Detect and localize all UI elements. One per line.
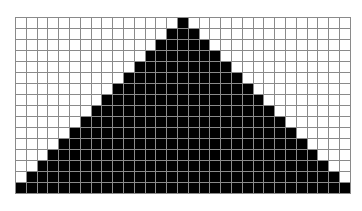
filled-cell [189, 51, 200, 62]
filled-cell [254, 172, 265, 183]
empty-cell [297, 84, 308, 95]
empty-cell [16, 128, 27, 139]
empty-cell [81, 18, 92, 29]
filled-cell [275, 172, 286, 183]
empty-cell [81, 95, 92, 106]
empty-cell [48, 128, 59, 139]
filled-cell [318, 161, 329, 172]
filled-cell [124, 150, 135, 161]
empty-cell [113, 18, 124, 29]
empty-cell [81, 62, 92, 73]
empty-cell [27, 62, 38, 73]
empty-cell [210, 40, 221, 51]
empty-cell [329, 161, 340, 172]
filled-cell [167, 183, 178, 194]
filled-cell [135, 117, 146, 128]
filled-cell [146, 128, 157, 139]
empty-cell [113, 29, 124, 40]
filled-cell [189, 150, 200, 161]
empty-cell [48, 62, 59, 73]
filled-cell [156, 172, 167, 183]
empty-cell [286, 62, 297, 73]
filled-cell [156, 51, 167, 62]
filled-cell [189, 128, 200, 139]
empty-cell [200, 29, 211, 40]
empty-cell [318, 106, 329, 117]
filled-cell [146, 95, 157, 106]
empty-cell [27, 95, 38, 106]
filled-cell [264, 117, 275, 128]
empty-cell [48, 51, 59, 62]
filled-cell [254, 117, 265, 128]
filled-cell [243, 139, 254, 150]
filled-cell [135, 150, 146, 161]
empty-cell [38, 117, 49, 128]
empty-cell [264, 62, 275, 73]
empty-cell [308, 128, 319, 139]
empty-cell [308, 117, 319, 128]
empty-cell [135, 51, 146, 62]
empty-cell [232, 51, 243, 62]
empty-cell [48, 95, 59, 106]
filled-cell [146, 117, 157, 128]
empty-cell [254, 73, 265, 84]
filled-cell [200, 73, 211, 84]
empty-cell [286, 40, 297, 51]
filled-cell [243, 161, 254, 172]
filled-cell [38, 172, 49, 183]
empty-cell [27, 161, 38, 172]
empty-cell [81, 40, 92, 51]
filled-cell [200, 106, 211, 117]
filled-cell [178, 161, 189, 172]
filled-cell [210, 51, 221, 62]
filled-cell [329, 183, 340, 194]
empty-cell [102, 73, 113, 84]
filled-cell [102, 95, 113, 106]
filled-cell [102, 139, 113, 150]
filled-cell [189, 172, 200, 183]
filled-cell [275, 139, 286, 150]
filled-cell [16, 183, 27, 194]
filled-cell [48, 161, 59, 172]
empty-cell [340, 139, 351, 150]
filled-cell [210, 84, 221, 95]
empty-cell [286, 84, 297, 95]
empty-cell [232, 18, 243, 29]
filled-cell [48, 183, 59, 194]
filled-cell [200, 62, 211, 73]
filled-cell [221, 95, 232, 106]
empty-cell [27, 106, 38, 117]
empty-cell [308, 106, 319, 117]
filled-cell [167, 84, 178, 95]
filled-cell [167, 40, 178, 51]
empty-cell [297, 51, 308, 62]
filled-cell [113, 95, 124, 106]
filled-cell [264, 172, 275, 183]
empty-cell [243, 18, 254, 29]
filled-cell [124, 172, 135, 183]
empty-cell [329, 51, 340, 62]
filled-cell [81, 161, 92, 172]
empty-cell [340, 150, 351, 161]
filled-cell [264, 183, 275, 194]
empty-cell [124, 18, 135, 29]
empty-cell [48, 40, 59, 51]
filled-cell [286, 161, 297, 172]
empty-cell [156, 18, 167, 29]
filled-cell [124, 128, 135, 139]
filled-cell [167, 139, 178, 150]
filled-cell [178, 172, 189, 183]
filled-cell [275, 161, 286, 172]
empty-cell [297, 73, 308, 84]
filled-cell [178, 95, 189, 106]
filled-cell [135, 62, 146, 73]
filled-cell [92, 128, 103, 139]
empty-cell [135, 29, 146, 40]
filled-cell [102, 150, 113, 161]
filled-cell [189, 29, 200, 40]
filled-cell [70, 161, 81, 172]
empty-cell [318, 139, 329, 150]
empty-cell [275, 73, 286, 84]
filled-cell [113, 161, 124, 172]
filled-cell [135, 95, 146, 106]
